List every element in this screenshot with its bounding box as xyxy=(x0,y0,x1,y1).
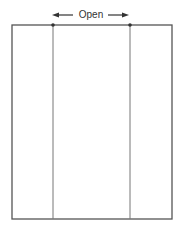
open-dimension-label: Open xyxy=(72,8,110,21)
left-hinge-dot-icon xyxy=(51,23,55,27)
right-arrow-icon xyxy=(108,13,129,18)
outer-frame xyxy=(12,25,172,219)
right-hinge-dot-icon xyxy=(128,23,132,27)
left-arrow-icon xyxy=(52,13,73,18)
panel-diagram xyxy=(0,0,182,231)
